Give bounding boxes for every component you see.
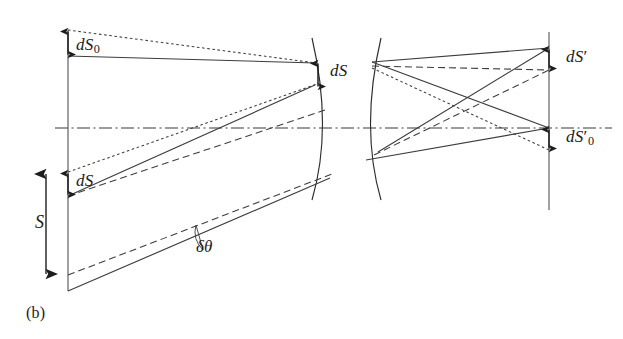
object-ray-upper-solid xyxy=(68,56,316,63)
image-ray-2-solid xyxy=(372,62,549,128)
panel-caption: (b) xyxy=(26,305,45,321)
image-ray-bundle xyxy=(366,48,549,160)
image-ray-1-solid xyxy=(372,48,549,62)
object-ray-bundle-oblique-upper xyxy=(68,84,325,196)
object-ray-oblique-solid xyxy=(68,85,315,196)
object-ray-lower-dashed xyxy=(68,174,332,275)
object-ray-bundle-upper xyxy=(68,30,316,63)
image-ray-7-solid xyxy=(366,128,549,160)
object-ray-upper-dotted xyxy=(68,30,316,63)
optics-ray-diagram-figure: dS0 dS S dS dS′ dS′0 δθ (b) xyxy=(0,0,623,339)
lens-front-surface-arc xyxy=(312,38,323,200)
label-dS-prime-0: dS′0 xyxy=(566,128,594,148)
label-S: S xyxy=(35,213,44,231)
label-dS-lens: dS xyxy=(330,62,347,79)
label-dS0: dS0 xyxy=(76,36,100,56)
label-dS-prime: dS′ xyxy=(566,48,588,65)
image-ray-5-solid xyxy=(378,48,549,152)
label-dS-object: dS xyxy=(76,172,93,189)
label-delta-theta: δθ xyxy=(196,238,213,255)
image-ray-3-dashed xyxy=(372,66,549,70)
image-ray-4-dotted xyxy=(372,68,549,150)
object-ray-oblique-dashed xyxy=(68,110,325,196)
object-ray-bundle-oblique-lower xyxy=(68,174,332,291)
image-ray-6-dashed xyxy=(374,70,549,155)
